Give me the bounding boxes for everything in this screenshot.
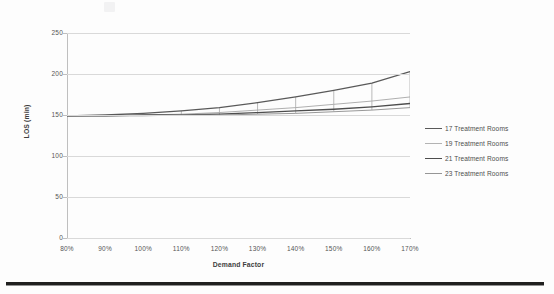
x-tick-label-140pct: 140%	[279, 245, 313, 252]
x-tick-label-100pct: 100%	[126, 245, 160, 252]
y-tick-mark-100	[63, 156, 67, 157]
y-tick-mark-250	[63, 33, 67, 34]
gridline-50	[67, 197, 410, 198]
legend-label: 19 Treatment Rooms	[445, 140, 508, 147]
legend-line-swatch	[425, 173, 442, 174]
y-tick-label-50: 50	[23, 193, 63, 200]
x-tick-label-90pct: 90%	[88, 245, 122, 252]
x-tick-label-170pct: 170%	[393, 245, 427, 252]
gridline-200	[67, 74, 410, 75]
series-line-17-rooms	[67, 72, 410, 116]
y-tick-mark-50	[63, 197, 67, 198]
y-tick-label-100: 100	[23, 152, 63, 159]
x-axis-title: Demand Factor	[67, 261, 410, 268]
x-tick-label-120pct: 120%	[202, 245, 236, 252]
line-chart: 050100150200250 LOS (min) Demand Factor …	[0, 0, 554, 280]
legend-label: 21 Treatment Rooms	[445, 155, 508, 162]
chart-legend: 17 Treatment Rooms19 Treatment Rooms21 T…	[425, 121, 547, 181]
y-tick-label-0: 0	[23, 234, 63, 241]
gridline-250	[67, 33, 410, 34]
y-tick-label-200: 200	[23, 70, 63, 77]
x-tick-label-80pct: 80%	[50, 245, 84, 252]
y-tick-mark-150	[63, 115, 67, 116]
y-tick-mark-0	[63, 238, 67, 239]
page-bottom-border-shadow	[6, 285, 544, 286]
legend-label: 17 Treatment Rooms	[445, 125, 508, 132]
x-tick-label-130pct: 130%	[241, 245, 275, 252]
gridline-0	[67, 238, 410, 239]
plot-area	[67, 33, 410, 238]
series-lines	[67, 33, 410, 238]
legend-item-23-rooms: 23 Treatment Rooms	[425, 166, 547, 181]
gridline-100	[67, 156, 410, 157]
legend-item-17-rooms: 17 Treatment Rooms	[425, 121, 547, 136]
legend-label: 23 Treatment Rooms	[445, 170, 508, 177]
x-tick-label-160pct: 160%	[355, 245, 389, 252]
legend-line-swatch	[425, 128, 442, 129]
x-tick-label-150pct: 150%	[317, 245, 351, 252]
gridline-150	[67, 115, 410, 116]
y-tick-label-250: 250	[23, 29, 63, 36]
y-axis-title: LOS (min)	[23, 92, 30, 152]
legend-item-19-rooms: 19 Treatment Rooms	[425, 136, 547, 151]
x-tick-label-110pct: 110%	[164, 245, 198, 252]
legend-item-21-rooms: 21 Treatment Rooms	[425, 151, 547, 166]
y-tick-mark-200	[63, 74, 67, 75]
legend-line-swatch	[425, 158, 442, 159]
legend-line-swatch	[425, 143, 442, 144]
